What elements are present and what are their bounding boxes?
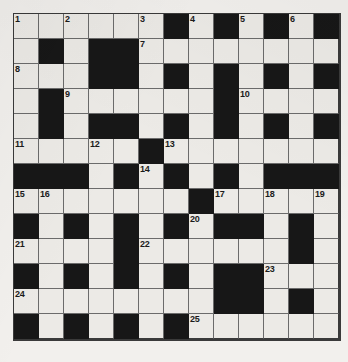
grid-cell-open[interactable] bbox=[89, 14, 114, 39]
grid-cell-open[interactable]: 23 bbox=[264, 264, 289, 289]
grid-cell-open[interactable] bbox=[114, 289, 139, 314]
grid-cell-open[interactable] bbox=[214, 314, 239, 339]
grid-cell-open[interactable]: 3 bbox=[139, 14, 164, 39]
grid-cell-open[interactable] bbox=[189, 114, 214, 139]
grid-cell-open[interactable] bbox=[189, 289, 214, 314]
grid-cell-open[interactable] bbox=[89, 239, 114, 264]
grid-cell-open[interactable] bbox=[64, 39, 89, 64]
grid-cell-open[interactable]: 14 bbox=[139, 164, 164, 189]
grid-cell-open[interactable]: 16 bbox=[39, 189, 64, 214]
grid-cell-open[interactable] bbox=[39, 139, 64, 164]
grid-cell-open[interactable] bbox=[164, 289, 189, 314]
grid-cell-open[interactable] bbox=[239, 239, 264, 264]
grid-cell-open[interactable] bbox=[139, 264, 164, 289]
grid-cell-open[interactable] bbox=[289, 264, 314, 289]
grid-cell-open[interactable] bbox=[264, 239, 289, 264]
grid-cell-open[interactable]: 11 bbox=[14, 139, 39, 164]
grid-cell-open[interactable] bbox=[314, 264, 339, 289]
grid-cell-open[interactable] bbox=[289, 39, 314, 64]
grid-cell-open[interactable] bbox=[189, 139, 214, 164]
grid-cell-open[interactable] bbox=[289, 89, 314, 114]
grid-cell-open[interactable] bbox=[264, 289, 289, 314]
grid-cell-open[interactable]: 5 bbox=[239, 14, 264, 39]
grid-cell-open[interactable] bbox=[314, 314, 339, 339]
grid-cell-open[interactable]: 24 bbox=[14, 289, 39, 314]
grid-cell-open[interactable] bbox=[64, 289, 89, 314]
grid-cell-open[interactable] bbox=[39, 64, 64, 89]
grid-cell-open[interactable] bbox=[289, 189, 314, 214]
grid-cell-open[interactable] bbox=[89, 89, 114, 114]
grid-cell-open[interactable] bbox=[39, 264, 64, 289]
grid-cell-open[interactable]: 18 bbox=[264, 189, 289, 214]
grid-cell-open[interactable] bbox=[239, 314, 264, 339]
grid-cell-open[interactable]: 22 bbox=[139, 239, 164, 264]
grid-cell-open[interactable]: 12 bbox=[89, 139, 114, 164]
grid-cell-open[interactable] bbox=[189, 64, 214, 89]
grid-cell-open[interactable]: 19 bbox=[314, 189, 339, 214]
grid-cell-open[interactable] bbox=[264, 89, 289, 114]
grid-cell-open[interactable] bbox=[64, 114, 89, 139]
grid-cell-open[interactable] bbox=[89, 189, 114, 214]
grid-cell-open[interactable]: 15 bbox=[14, 189, 39, 214]
grid-cell-open[interactable] bbox=[64, 239, 89, 264]
grid-cell-open[interactable] bbox=[239, 39, 264, 64]
grid-cell-open[interactable] bbox=[139, 189, 164, 214]
grid-cell-open[interactable]: 7 bbox=[139, 39, 164, 64]
grid-cell-open[interactable] bbox=[289, 114, 314, 139]
grid-cell-open[interactable] bbox=[64, 64, 89, 89]
grid-cell-open[interactable] bbox=[89, 314, 114, 339]
grid-cell-open[interactable] bbox=[39, 214, 64, 239]
grid-cell-open[interactable] bbox=[264, 139, 289, 164]
grid-cell-open[interactable] bbox=[139, 214, 164, 239]
grid-cell-open[interactable] bbox=[239, 139, 264, 164]
grid-cell-open[interactable] bbox=[239, 164, 264, 189]
grid-cell-open[interactable] bbox=[314, 214, 339, 239]
grid-cell-open[interactable] bbox=[139, 89, 164, 114]
grid-cell-open[interactable] bbox=[164, 89, 189, 114]
grid-cell-open[interactable] bbox=[314, 239, 339, 264]
grid-cell-open[interactable] bbox=[139, 314, 164, 339]
crossword-grid[interactable]: 1234567891011121314151617181920212223242… bbox=[13, 13, 341, 341]
grid-cell-open[interactable] bbox=[189, 89, 214, 114]
grid-cell-open[interactable] bbox=[189, 239, 214, 264]
grid-cell-open[interactable] bbox=[39, 239, 64, 264]
grid-cell-open[interactable] bbox=[39, 289, 64, 314]
grid-cell-open[interactable]: 25 bbox=[189, 314, 214, 339]
grid-cell-open[interactable]: 17 bbox=[214, 189, 239, 214]
grid-cell-open[interactable] bbox=[189, 264, 214, 289]
grid-cell-open[interactable] bbox=[14, 89, 39, 114]
grid-cell-open[interactable] bbox=[214, 239, 239, 264]
grid-cell-open[interactable] bbox=[164, 39, 189, 64]
grid-cell-open[interactable] bbox=[89, 264, 114, 289]
grid-cell-open[interactable] bbox=[39, 14, 64, 39]
grid-cell-open[interactable] bbox=[89, 164, 114, 189]
grid-cell-open[interactable] bbox=[264, 314, 289, 339]
grid-cell-open[interactable] bbox=[314, 139, 339, 164]
grid-cell-open[interactable] bbox=[39, 314, 64, 339]
grid-cell-open[interactable] bbox=[314, 289, 339, 314]
grid-cell-open[interactable] bbox=[289, 314, 314, 339]
grid-cell-open[interactable]: 4 bbox=[189, 14, 214, 39]
grid-cell-open[interactable] bbox=[114, 89, 139, 114]
grid-cell-open[interactable]: 10 bbox=[239, 89, 264, 114]
grid-cell-open[interactable] bbox=[214, 39, 239, 64]
grid-cell-open[interactable]: 2 bbox=[64, 14, 89, 39]
grid-cell-open[interactable] bbox=[164, 239, 189, 264]
grid-cell-open[interactable]: 13 bbox=[164, 139, 189, 164]
grid-cell-open[interactable] bbox=[64, 139, 89, 164]
grid-cell-open[interactable] bbox=[139, 114, 164, 139]
grid-cell-open[interactable] bbox=[189, 39, 214, 64]
grid-cell-open[interactable] bbox=[114, 139, 139, 164]
grid-cell-open[interactable] bbox=[239, 64, 264, 89]
grid-cell-open[interactable] bbox=[314, 39, 339, 64]
grid-cell-open[interactable] bbox=[114, 189, 139, 214]
grid-cell-open[interactable]: 1 bbox=[14, 14, 39, 39]
grid-cell-open[interactable] bbox=[64, 189, 89, 214]
grid-cell-open[interactable] bbox=[289, 139, 314, 164]
grid-cell-open[interactable]: 8 bbox=[14, 64, 39, 89]
grid-cell-open[interactable]: 6 bbox=[289, 14, 314, 39]
grid-cell-open[interactable]: 21 bbox=[14, 239, 39, 264]
grid-cell-open[interactable] bbox=[114, 14, 139, 39]
grid-cell-open[interactable] bbox=[89, 289, 114, 314]
grid-cell-open[interactable] bbox=[189, 164, 214, 189]
